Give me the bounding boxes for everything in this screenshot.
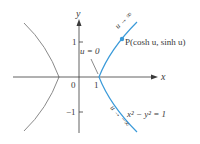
y-tick-label-neg1: −1 xyxy=(66,107,76,117)
y-tick-label-1: 1 xyxy=(72,37,77,47)
vertex-label: u = 0 xyxy=(80,46,100,56)
hyperbola-figure: x y 1 −1 0 1 u = 0 P(cosh u, sinh u) x² … xyxy=(0,0,200,144)
x-tick-label-0: 0 xyxy=(71,80,76,90)
equation-label: x² − y² = 1 xyxy=(126,109,166,119)
point-p-marker xyxy=(120,37,124,41)
x-axis-arrow-icon xyxy=(151,75,158,80)
x-axis-label: x xyxy=(160,71,166,82)
vertex-leader-line xyxy=(91,59,98,74)
upper-arrow-label: u → ∞ xyxy=(113,9,134,30)
y-axis-label: y xyxy=(75,8,81,19)
y-axis: y xyxy=(75,8,83,133)
point-p-label: P(cosh u, sinh u) xyxy=(125,37,186,47)
x-axis: x xyxy=(13,71,166,82)
x-tick-label-1: 1 xyxy=(94,80,99,90)
y-axis-arrow-icon xyxy=(77,19,82,26)
